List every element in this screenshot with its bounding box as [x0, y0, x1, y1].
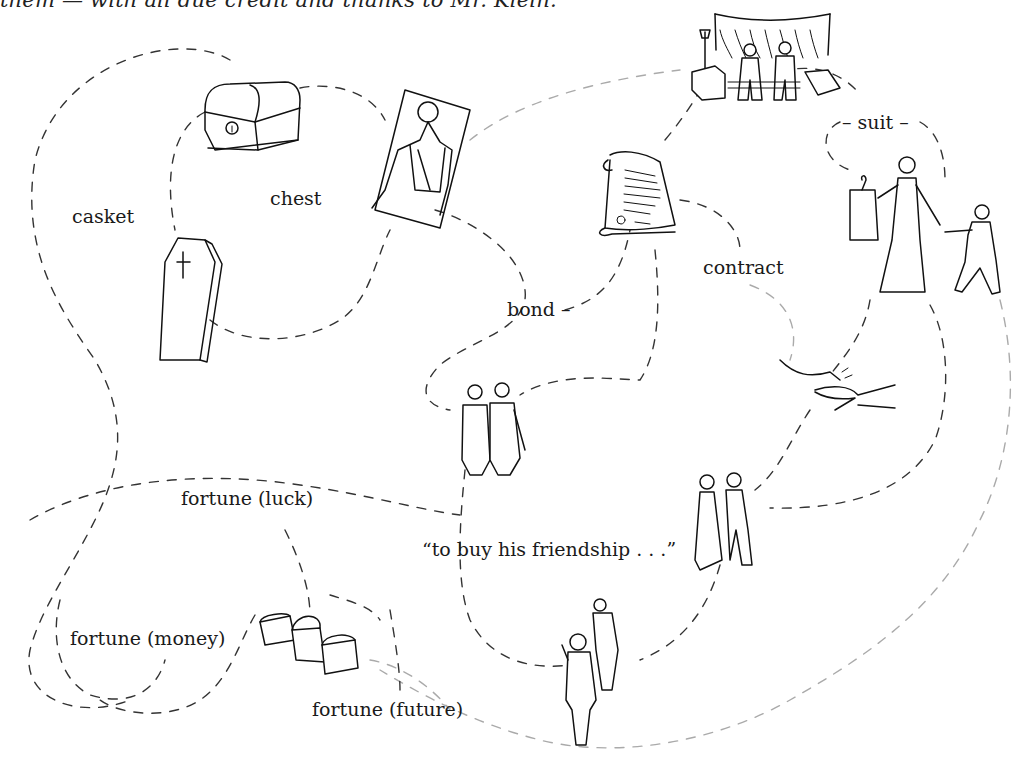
- coffin-icon: [160, 238, 222, 362]
- treasure-chest-icon: [205, 82, 300, 150]
- three-treasure-chests-icon: [260, 614, 358, 674]
- scroll-document-icon: [600, 152, 675, 235]
- man-in-casket-icon: [372, 90, 470, 228]
- two-men-friends-icon: [462, 383, 525, 475]
- hands-exchange-icon: [780, 360, 895, 410]
- couple-icon: [695, 473, 752, 570]
- illustrations: [0, 0, 1028, 768]
- two-people-walking-icon: [562, 599, 618, 745]
- courtroom-crowd-icon: [692, 14, 840, 100]
- woman-suit-proposal-icon: [850, 157, 1000, 294]
